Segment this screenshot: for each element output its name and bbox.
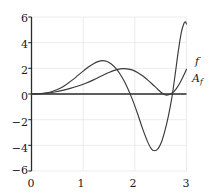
curve-label-f-base: f — [195, 55, 199, 68]
xtick-label-2: 2 — [124, 178, 142, 189]
ytick-label-m6: −6 — [6, 165, 28, 176]
ytick-label-2: 2 — [10, 65, 28, 76]
ytick-label-6: 6 — [10, 13, 28, 24]
ytick-label-m2: −2 — [6, 117, 28, 128]
ytick-label-m4: −4 — [6, 143, 28, 154]
xtick-label-0: 0 — [22, 178, 40, 189]
ytick-label-4: 4 — [10, 39, 28, 50]
figure-container: 6 4 2 0 −2 −4 −6 0 1 2 3 f Af — [0, 0, 212, 195]
curve-label-af-sub: f — [200, 77, 203, 86]
curve-label-af: Af — [192, 73, 203, 84]
xtick-label-1: 1 — [72, 178, 90, 189]
chart-plot — [0, 0, 212, 195]
curve-label-f: f — [195, 56, 199, 67]
ytick-label-0: 0 — [10, 91, 28, 102]
xtick-label-3: 3 — [177, 178, 195, 189]
curve-af — [32, 69, 187, 96]
curves-group — [32, 22, 187, 151]
curve-f — [32, 22, 187, 151]
curve-label-af-base: A — [192, 72, 200, 85]
